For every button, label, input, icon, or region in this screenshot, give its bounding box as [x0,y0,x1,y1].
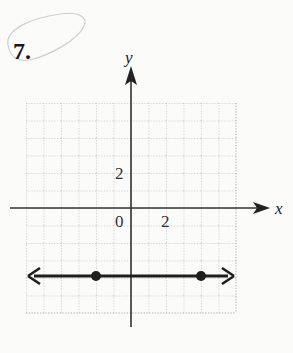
coordinate-graph: x y 0 2 2 [0,0,293,353]
y-tick-label-2: 2 [115,164,124,183]
x-tick-label-2: 2 [161,212,170,231]
point-neg2-neg4 [91,271,101,281]
y-axis-label: y [123,48,133,67]
point-4-neg4 [196,271,206,281]
x-axis-label: x [274,199,283,218]
origin-label: 0 [115,212,124,231]
